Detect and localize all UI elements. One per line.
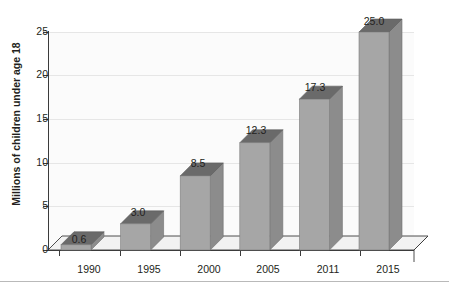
x-tick-label-2011: 2011 [298, 263, 358, 275]
x-tick-2011 [300, 251, 301, 256]
x-tick-1990 [59, 251, 60, 256]
bar-2000 [180, 163, 223, 250]
x-tick-2005 [240, 251, 241, 256]
bar-label-1995: 3.0 [116, 206, 160, 218]
x-tick-label-2015: 2015 [358, 263, 418, 275]
bar-2011 [299, 86, 342, 250]
bar-label-2005: 12.3 [234, 124, 278, 136]
bar-2015 [359, 19, 402, 250]
footer-rule [0, 281, 449, 282]
x-tick-2015 [360, 251, 361, 256]
x-tick-label-2005: 2005 [238, 263, 298, 275]
bar-label-2011: 17.3 [293, 81, 337, 93]
x-tick-label-1995: 1995 [119, 263, 179, 275]
bar-label-1990: 0.6 [57, 233, 101, 245]
x-tick-label-1990: 1990 [59, 263, 119, 275]
x-tick-label-2000: 2000 [179, 263, 239, 275]
bar-label-2015: 25.0 [352, 15, 396, 27]
x-tick-2000 [180, 251, 181, 256]
bar-label-2000: 8.5 [176, 157, 220, 169]
bar-2005 [240, 130, 283, 250]
x-tick-1995 [120, 251, 121, 256]
bar-chart: 25 20 15 10 5 0 Millions of children und… [0, 0, 449, 288]
